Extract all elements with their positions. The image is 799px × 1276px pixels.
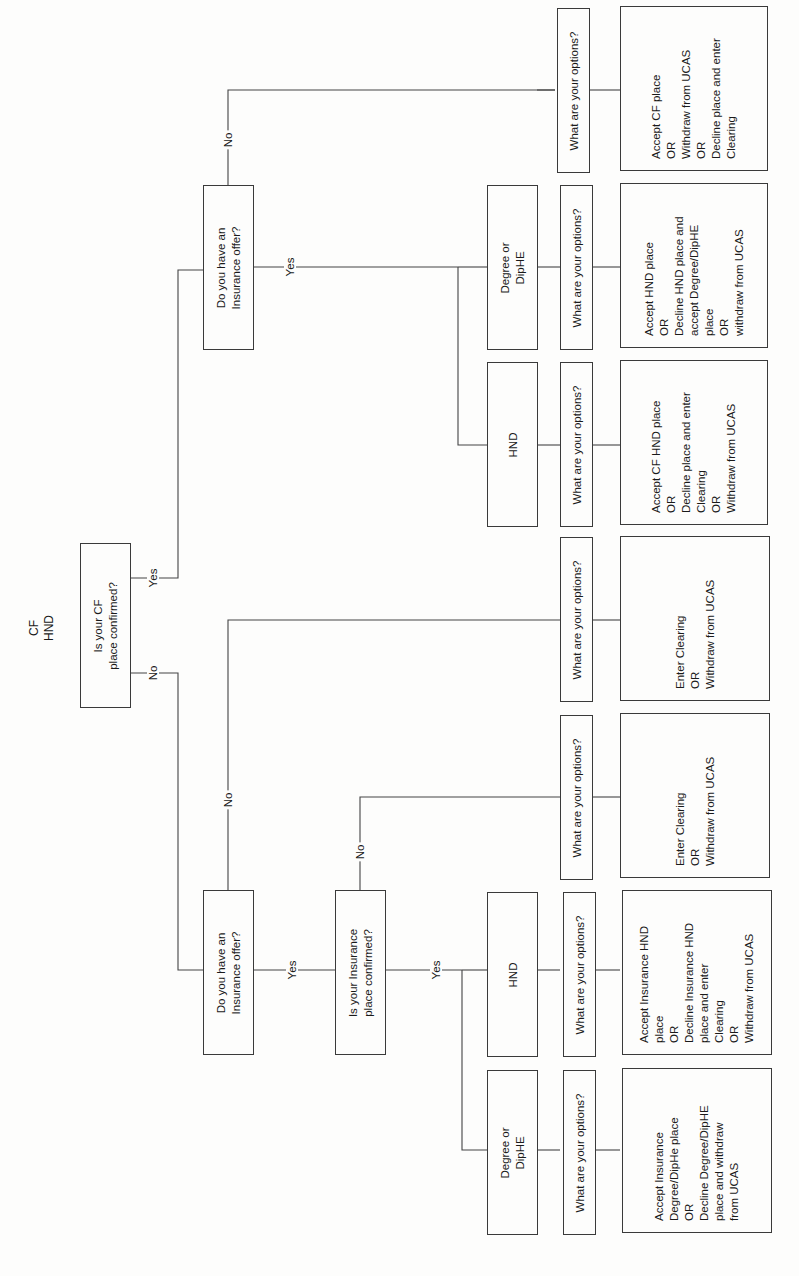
text-line: Accept CF place: [649, 19, 664, 159]
text-line: Clearing: [712, 903, 727, 1043]
text-line: OR: [664, 373, 679, 513]
text-line: HND: [505, 432, 520, 457]
top-hnd-text: HND: [505, 432, 520, 457]
top-no-options-question: What are your options?: [557, 8, 590, 173]
text-line: place and withdraw: [712, 1081, 727, 1221]
top-hnd-options-answer: Accept CF HND place OR Decline place and…: [620, 360, 768, 525]
text-line: place: [702, 196, 717, 336]
text-line: place confirmed?: [106, 582, 121, 670]
top-degree-box: Degree or DipHE: [487, 185, 538, 350]
text-line: OR: [682, 1081, 697, 1221]
insurance-confirmed-text: Is your Insurance place confirmed?: [346, 928, 376, 1016]
text-line: Decline place and enter: [709, 19, 724, 159]
options-answer-text: Accept Insurance Degree/DipHe place OR D…: [652, 1081, 742, 1221]
text-line: Do you have an: [214, 226, 229, 309]
text-line: OR: [688, 549, 703, 689]
text-line: place confirmed?: [361, 928, 376, 1016]
bottom-hnd-box: HND: [487, 892, 538, 1057]
top-hnd-box: HND: [487, 362, 538, 527]
options-question-text: What are your options?: [572, 1093, 587, 1212]
ins-not-confirmed-options-question: What are your options?: [560, 715, 593, 880]
text-line: OR: [657, 196, 672, 336]
text-line: HND: [505, 962, 520, 987]
edge-label-top-ins-no: No: [222, 131, 234, 150]
text-line: Degree or: [498, 1127, 513, 1178]
bottom-insurance-offer-decision: Do you have an Insurance offer?: [203, 890, 254, 1055]
ins-not-confirmed-options-answer: Enter Clearing OR Withdraw from UCAS: [620, 713, 770, 878]
text-line: Insurance offer?: [229, 931, 244, 1014]
bottom-degree-options-answer: Accept Insurance Degree/DipHe place OR D…: [622, 1068, 772, 1233]
text-line: place and enter: [697, 903, 712, 1043]
bottom-insurance-offer-text: Do you have an Insurance offer?: [214, 931, 244, 1014]
text-line: place: [652, 903, 667, 1043]
text-line: OR: [667, 903, 682, 1043]
text-line: Accept HND place: [642, 196, 657, 336]
text-line: OR: [694, 19, 709, 159]
text-line: OR: [709, 373, 724, 513]
top-degree-options-answer: Accept HND place OR Decline HND place an…: [620, 183, 768, 348]
insurance-place-confirmed-decision: Is your Insurance place confirmed?: [335, 890, 386, 1055]
bottom-no-offer-options-question: What are your options?: [560, 537, 593, 702]
top-insurance-offer-text: Do you have an Insurance offer?: [214, 226, 244, 309]
bottom-degree-options-question: What are your options?: [563, 1070, 596, 1235]
top-insurance-offer-decision: Do you have an Insurance offer?: [203, 185, 254, 350]
text-line: Withdraw from UCAS: [724, 373, 739, 513]
bottom-degree-text: Degree or DipHE: [498, 1127, 528, 1178]
options-answer-text: Accept CF HND place OR Decline place and…: [649, 373, 739, 513]
text-line: Enter Clearing: [673, 549, 688, 689]
text-line: Withdraw from UCAS: [742, 903, 757, 1043]
bottom-hnd-options-answer: Accept Insurance HND place OR Decline In…: [622, 890, 772, 1055]
text-line: Decline place and enter: [679, 373, 694, 513]
options-answer-text: Accept HND place OR Decline HND place an…: [642, 196, 747, 336]
top-no-options-answer: Accept CF place OR Withdraw from UCAS OR…: [620, 6, 768, 171]
cf-place-confirmed-text: Is your CF place confirmed?: [91, 582, 121, 670]
options-answer-text: Accept CF place OR Withdraw from UCAS OR…: [649, 19, 739, 159]
options-question-text: What are your options?: [569, 208, 584, 327]
edge-label-cf-no: No: [147, 664, 159, 683]
text-line: Insurance offer?: [229, 226, 244, 309]
edge-label-bottom-ins-yes: Yes: [286, 959, 298, 982]
text-line: Is your Insurance: [346, 928, 361, 1016]
text-line: Decline HND place and: [672, 196, 687, 336]
text-line: Degree or: [498, 242, 513, 293]
text-line: withdraw from UCAS: [732, 196, 747, 336]
text-line: Accept Insurance: [652, 1081, 667, 1221]
top-degree-options-question: What are your options?: [560, 185, 593, 350]
edge-label-ins-conf-no: No: [354, 843, 366, 862]
options-question-text: What are your options?: [566, 31, 581, 150]
text-line: OR: [664, 19, 679, 159]
options-answer-text: Accept Insurance HND place OR Decline In…: [637, 903, 757, 1043]
text-line: DipHE: [513, 242, 528, 293]
options-answer-text: Enter Clearing OR Withdraw from UCAS: [673, 726, 718, 866]
options-answer-text: Enter Clearing OR Withdraw from UCAS: [673, 549, 718, 689]
diagram-title: CF HND: [27, 615, 57, 641]
text-line: Accept Insurance HND: [637, 903, 652, 1043]
text-line: Decline Degree/DipHE: [697, 1081, 712, 1221]
text-line: Decline Insurance HND: [682, 903, 697, 1043]
bottom-hnd-text: HND: [505, 962, 520, 987]
top-hnd-options-question: What are your options?: [560, 362, 593, 527]
text-line: Withdraw from UCAS: [679, 19, 694, 159]
text-line: Do you have an: [214, 931, 229, 1014]
text-line: Withdraw from UCAS: [703, 549, 718, 689]
text-line: from UCAS: [727, 1081, 742, 1221]
text-line: accept Degree/DipHE: [687, 196, 702, 336]
top-degree-text: Degree or DipHE: [498, 242, 528, 293]
options-question-text: What are your options?: [569, 560, 584, 679]
text-line: Withdraw from UCAS: [703, 726, 718, 866]
edge-label-bottom-ins-no: No: [222, 791, 234, 810]
text-line: DipHE: [513, 1127, 528, 1178]
options-question-text: What are your options?: [569, 738, 584, 857]
text-line: Clearing: [694, 373, 709, 513]
text-line: Is your CF: [91, 582, 106, 670]
text-line: OR: [688, 726, 703, 866]
text-line: Degree/DipHe place: [667, 1081, 682, 1221]
edge-label-ins-conf-yes: Yes: [430, 959, 442, 982]
edge-label-cf-yes: Yes: [147, 567, 159, 590]
text-line: Enter Clearing: [673, 726, 688, 866]
title-line-2: HND: [42, 615, 57, 641]
options-question-text: What are your options?: [572, 915, 587, 1034]
edge-label-top-ins-yes: Yes: [284, 256, 296, 279]
bottom-no-offer-options-answer: Enter Clearing OR Withdraw from UCAS: [620, 536, 770, 701]
title-line-1: CF: [27, 615, 42, 641]
